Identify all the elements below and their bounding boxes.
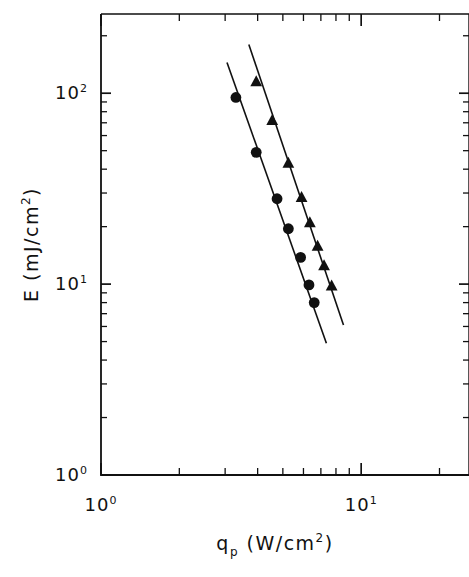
data-point-circle [272, 193, 283, 204]
figure-container: 102101100 100101 E (mJ/cm2) qp (W/cm2) [0, 0, 469, 577]
data-point-circle [231, 92, 242, 103]
log-log-scatter-chart: 102101100 100101 E (mJ/cm2) qp (W/cm2) [0, 0, 469, 577]
data-point-circle [309, 297, 320, 308]
data-point-circle [283, 223, 294, 234]
data-point-circle [251, 147, 262, 158]
data-point-circle [295, 252, 306, 263]
data-point-circle [304, 280, 315, 291]
